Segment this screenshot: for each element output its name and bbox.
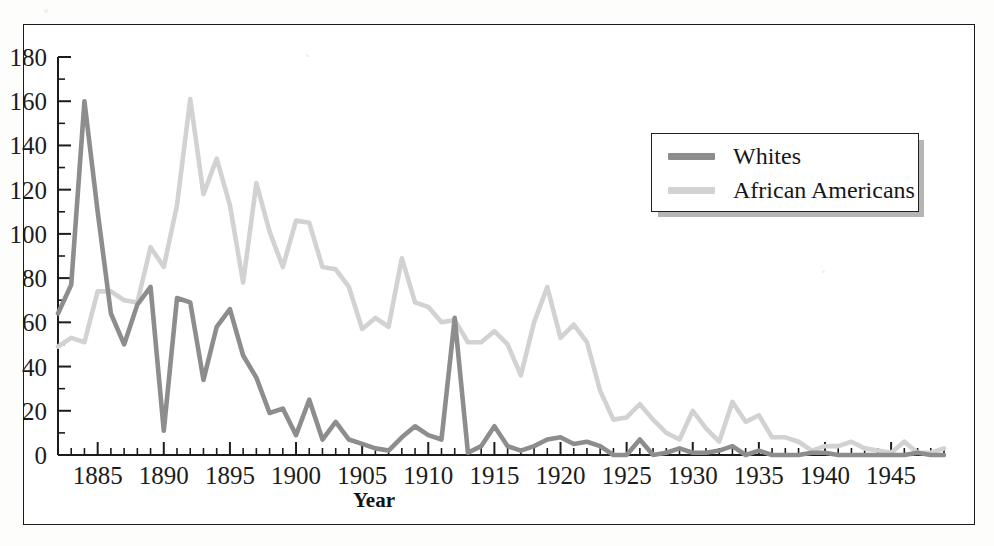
scan-speck	[306, 54, 309, 57]
legend-label-african-americans: African Americans	[733, 178, 915, 202]
legend-swatch-whites	[668, 153, 715, 160]
figure-outer-frame	[23, 24, 975, 525]
scan-speck	[822, 270, 825, 273]
legend-item-whites: Whites	[652, 139, 918, 173]
figure-root: 0204060801001201401601801885189018951900…	[0, 0, 994, 546]
legend-swatch-african-americans	[668, 187, 715, 194]
chart-legend: Whites African Americans	[651, 133, 919, 212]
scan-speck	[44, 9, 48, 13]
legend-label-whites: Whites	[733, 144, 801, 168]
legend-item-african-americans: African Americans	[652, 173, 918, 207]
